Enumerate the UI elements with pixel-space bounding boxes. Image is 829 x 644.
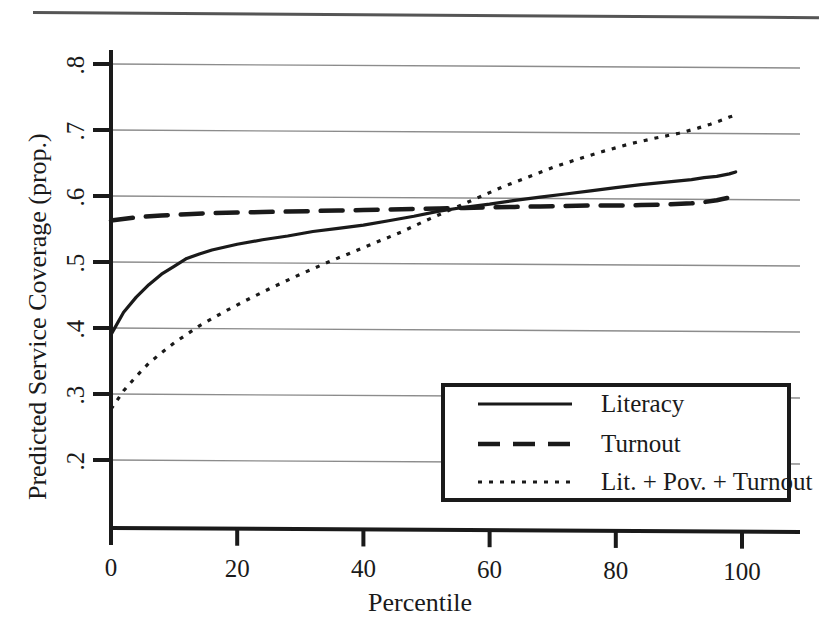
x-axis-title: Percentile bbox=[368, 588, 472, 617]
y-axis-title: Predicted Service Coverage (prop.) bbox=[23, 133, 52, 500]
y-tick-label: .3 bbox=[62, 386, 89, 405]
y-tick-label: .8 bbox=[62, 56, 89, 75]
legend[interactable]: LiteracyTurnoutLit. + Pov. + Turnout bbox=[443, 385, 812, 500]
gridline bbox=[111, 64, 800, 68]
y-tick-label: .2 bbox=[62, 452, 89, 471]
y-axis-tick-labels: .2.3.4.5.6.7.8 bbox=[62, 56, 89, 471]
legend-label-2: Turnout bbox=[601, 430, 681, 457]
gridline bbox=[111, 196, 800, 200]
x-axis-tick-labels: 020406080100 bbox=[105, 554, 761, 585]
x-tick-label: 40 bbox=[351, 555, 376, 582]
series-line-turnout bbox=[111, 196, 736, 220]
y-axis-ticks bbox=[93, 64, 111, 460]
gridline bbox=[111, 262, 800, 266]
x-tick-label: 0 bbox=[105, 554, 118, 581]
legend-label-1: Literacy bbox=[601, 390, 685, 417]
y-tick-label: .7 bbox=[62, 122, 89, 141]
gridline bbox=[111, 328, 800, 332]
gridline bbox=[111, 130, 800, 134]
legend-label-3: Lit. + Pov. + Turnout bbox=[601, 468, 812, 495]
x-tick-label: 100 bbox=[723, 558, 761, 585]
y-tick-label: .4 bbox=[62, 319, 89, 338]
y-tick-label: .5 bbox=[62, 254, 89, 273]
x-tick-label: 60 bbox=[477, 556, 502, 583]
chart-plot: .2.3.4.5.6.7.8 020406080100 Predicted Se… bbox=[0, 0, 829, 644]
figure-container: .2.3.4.5.6.7.8 020406080100 Predicted Se… bbox=[0, 0, 829, 644]
y-tick-label: .6 bbox=[62, 188, 89, 207]
x-tick-label: 80 bbox=[603, 557, 628, 584]
x-tick-label: 20 bbox=[225, 555, 250, 582]
